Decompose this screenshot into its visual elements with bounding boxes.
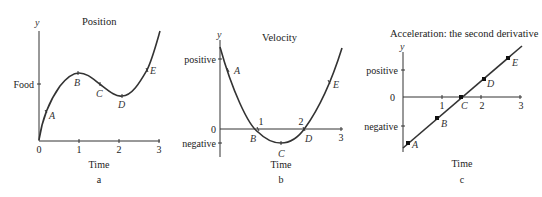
y-axis-label: y (216, 29, 222, 40)
panel-title: Position (82, 16, 117, 27)
y-tick-label-food: Food (13, 79, 34, 90)
point-label-b: B (441, 118, 447, 129)
x-tick-label: 2 (480, 100, 485, 111)
y-axis-label: y (399, 41, 405, 52)
point-label-a: A (411, 139, 419, 150)
x-tick-label: 1 (259, 116, 264, 127)
x-tick-label: 2 (299, 116, 304, 127)
x-tick-label: 0 (37, 144, 42, 155)
x-axis-label: Time (271, 159, 292, 170)
panel-title: Acceleration: the second derivative (390, 28, 539, 39)
x-axis-label: Time (452, 158, 473, 169)
y-tick-label-positive: positive (184, 54, 216, 65)
point-label-d: D (117, 99, 126, 110)
x-tick-label: 3 (339, 132, 344, 143)
x-tick-label: 1 (77, 144, 82, 155)
x-tick-label: 3 (519, 100, 524, 111)
point-label-e: E (511, 57, 518, 68)
x-tick-label: 1 (440, 100, 445, 111)
y-tick-label-positive: positive (366, 65, 398, 76)
point-label-a: A (233, 65, 241, 76)
panel-caption: b (279, 174, 284, 185)
point-label-a: A (48, 110, 56, 121)
x-axis-label: Time (89, 159, 110, 170)
figure: y Position Food 0 1 2 3 Time a A B C D E (0, 0, 542, 197)
point-label-c: C (461, 100, 468, 111)
panel-acceleration: Acceleration: the second derivative y po… (364, 28, 539, 185)
point-label-c: C (96, 88, 103, 99)
x-tick-label: 2 (117, 144, 122, 155)
point-label-b: B (250, 133, 256, 144)
panel-velocity: y Velocity positive 0 negative 1 2 3 Tim… (182, 29, 343, 185)
point-label-b: B (74, 77, 80, 88)
point-label-c: C (278, 148, 285, 159)
point-label-e: E (332, 79, 339, 90)
y-axis-label: y (34, 17, 40, 28)
panel-caption: c (460, 174, 465, 185)
point-label-d: D (486, 78, 495, 89)
y-tick-label-zero: 0 (211, 124, 216, 135)
panel-title: Velocity (262, 32, 298, 43)
point-label-d: D (304, 133, 313, 144)
y-tick-label-negative: negative (182, 138, 216, 149)
y-tick-label-negative: negative (364, 121, 398, 132)
panel-caption: a (97, 174, 102, 185)
data-points (227, 68, 330, 145)
x-tick-label: 3 (157, 144, 162, 155)
panel-position: y Position Food 0 1 2 3 Time a A B C D E (13, 16, 161, 185)
point-label-e: E (149, 65, 156, 76)
y-tick-label-zero: 0 (390, 92, 395, 103)
